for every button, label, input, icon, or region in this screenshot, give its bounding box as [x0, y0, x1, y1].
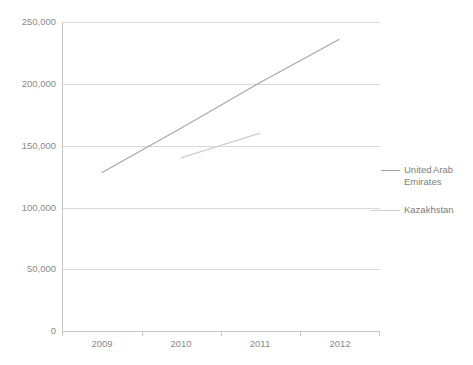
- legend-item-kazakhstan[interactable]: Kazakhstan: [381, 204, 473, 216]
- legend-label: Kazakhstan: [404, 204, 473, 216]
- legend-swatch-icon: [381, 170, 400, 171]
- chart-container: 250,000 200,000 150,000 100,000 50,000 0…: [0, 0, 473, 365]
- legend-label: United ArabEmirates: [404, 164, 473, 187]
- series-line-kazakhstan: [181, 133, 260, 158]
- chart-legend: United ArabEmirates Kazakhstan: [381, 164, 473, 226]
- legend-item-united-arab-emirates[interactable]: United ArabEmirates: [381, 164, 473, 187]
- series-line-united-arab-emirates: [102, 39, 340, 172]
- legend-swatch-icon: [370, 210, 400, 211]
